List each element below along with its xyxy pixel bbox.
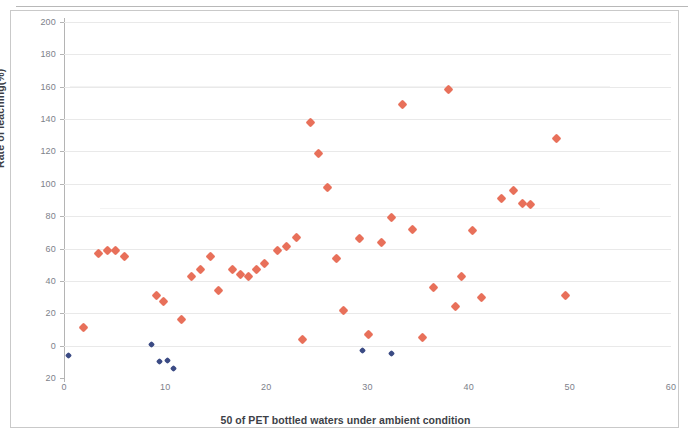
y-tick-mark — [60, 281, 64, 282]
data-point — [314, 148, 324, 158]
data-point — [398, 100, 408, 110]
data-point — [388, 350, 395, 357]
y-tick-mark — [60, 119, 64, 120]
x-tick-label: 10 — [160, 382, 170, 392]
x-tick-label: 50 — [565, 382, 575, 392]
y-tick-label: 100 — [40, 179, 56, 189]
y-tick-mark — [60, 216, 64, 217]
y-tick-label: 0 — [51, 341, 56, 351]
y-tick-mark — [60, 151, 64, 152]
gridline-y — [64, 249, 671, 250]
y-tick-label: 60 — [46, 244, 56, 254]
data-point — [496, 193, 506, 203]
data-point — [251, 265, 261, 275]
y-tick-label: 200 — [40, 17, 56, 27]
gridline-y — [64, 184, 671, 185]
gridline-y — [64, 54, 671, 55]
y-tick-label: 80 — [46, 211, 56, 221]
data-point — [298, 334, 308, 344]
data-point — [120, 252, 130, 262]
data-point — [359, 347, 366, 354]
gridline-y — [64, 119, 671, 120]
y-tick-mark — [60, 249, 64, 250]
y-tick-mark — [60, 378, 64, 379]
data-point — [364, 329, 374, 339]
y-tick-label: 20 — [46, 308, 56, 318]
data-point — [468, 226, 478, 236]
data-point — [235, 269, 245, 279]
data-point — [156, 358, 163, 365]
data-point — [525, 200, 535, 210]
data-point — [508, 185, 518, 195]
plot-area — [64, 22, 671, 378]
data-point — [170, 365, 177, 372]
y-tick-label: 40 — [46, 276, 56, 286]
data-point — [158, 297, 168, 307]
y-tick-mark — [60, 346, 64, 347]
y-tick-mark — [60, 184, 64, 185]
y-tick-label: 120 — [40, 146, 56, 156]
data-point — [477, 292, 487, 302]
y-tick-label: 180 — [40, 49, 56, 59]
y-tick-label: 160 — [40, 82, 56, 92]
data-point — [196, 265, 206, 275]
y-tick-mark — [60, 313, 64, 314]
y-tick-mark — [60, 54, 64, 55]
gridline-y — [64, 346, 671, 347]
y-tick-mark — [60, 87, 64, 88]
gridline-y — [64, 313, 671, 314]
data-point — [243, 271, 253, 281]
x-tick-label: 0 — [61, 382, 66, 392]
data-point — [552, 134, 562, 144]
data-point — [451, 302, 461, 312]
data-point — [457, 271, 467, 281]
data-point — [164, 357, 171, 364]
data-point — [187, 271, 197, 281]
x-tick-label: 60 — [666, 382, 676, 392]
y-axis-title: Rate of leaching(%) — [0, 69, 6, 168]
data-point — [331, 253, 341, 263]
data-point — [206, 252, 216, 262]
x-axis-title: 50 of PET bottled waters under ambient c… — [0, 414, 691, 426]
gridline-y — [64, 22, 671, 23]
data-point — [282, 242, 292, 252]
gridline-y — [64, 87, 671, 88]
x-tick-label: 30 — [362, 382, 372, 392]
gridline-y — [64, 281, 671, 282]
x-tick-label: 40 — [463, 382, 473, 392]
gridline-y — [64, 151, 671, 152]
x-tick-label: 20 — [261, 382, 271, 392]
data-point — [354, 234, 364, 244]
data-point — [64, 352, 71, 359]
document-top-rule — [16, 6, 688, 7]
data-point — [259, 258, 269, 268]
data-point — [78, 323, 88, 333]
gridline-y — [64, 216, 671, 217]
data-point — [407, 224, 417, 234]
data-point — [387, 213, 397, 223]
data-point — [428, 282, 438, 292]
y-tick-mark — [60, 22, 64, 23]
data-point — [377, 237, 387, 247]
data-point — [417, 333, 427, 343]
data-point — [176, 315, 186, 325]
data-point — [214, 286, 224, 296]
data-point — [111, 245, 121, 255]
y-tick-label: 20 — [46, 373, 56, 383]
data-point — [292, 232, 302, 242]
y-tick-label: 140 — [40, 114, 56, 124]
scatter-chart: Rate of leaching(%) 50 of PET bottled wa… — [0, 0, 691, 441]
data-point — [561, 291, 571, 301]
